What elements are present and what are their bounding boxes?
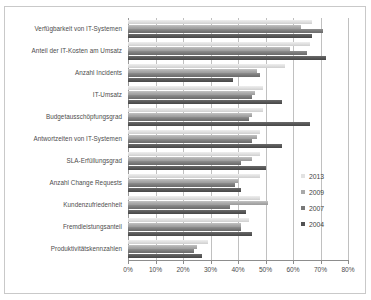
bar-2009 — [128, 91, 255, 95]
x-axis-tick-labels: 0%10%20%30%40%50%60%70%80% — [128, 266, 348, 278]
category-label: Produktivitätskennzahlen — [6, 238, 126, 260]
bar-2009 — [128, 25, 301, 29]
bar-row — [128, 108, 348, 112]
bar-group — [128, 84, 348, 106]
bar-2007 — [128, 51, 307, 55]
bar-row — [128, 29, 348, 33]
bar-2007 — [128, 73, 260, 77]
x-axis-tick-label: 80% — [341, 266, 354, 273]
bar-2004 — [128, 144, 282, 148]
bar-row — [128, 20, 348, 24]
category-label: Anzahl Change Requests — [6, 172, 126, 194]
bar-2013 — [128, 130, 260, 134]
bar-2004 — [128, 122, 310, 126]
bar-row — [128, 73, 348, 77]
bar-row — [128, 47, 348, 51]
bar-row — [128, 254, 348, 258]
bar-row — [128, 139, 348, 143]
x-axis-tick-label: 40% — [231, 266, 244, 273]
legend-label: 2009 — [309, 189, 324, 196]
x-axis-tick-label: 70% — [314, 266, 327, 273]
legend-item-2004[interactable]: 2004 — [301, 216, 357, 232]
bar-group — [128, 128, 348, 150]
bar-group — [128, 40, 348, 62]
category-label: Verfügbarkeit von IT-Systemen — [6, 18, 126, 40]
bar-2007 — [128, 139, 252, 143]
bar-2004 — [128, 56, 326, 60]
bar-2007 — [128, 183, 235, 187]
bar-row — [128, 34, 348, 38]
bar-row — [128, 25, 348, 29]
bar-2007 — [128, 227, 241, 231]
legend-swatch-icon — [301, 206, 305, 210]
category-label: Antwortzeiten von IT-Systemen — [6, 128, 126, 150]
category-label: IT-Umsatz — [6, 84, 126, 106]
legend-item-2013[interactable]: 2013 — [301, 168, 357, 184]
x-axis-tick — [211, 260, 212, 264]
bar-2007 — [128, 29, 323, 33]
bar-row — [128, 161, 348, 165]
bar-group — [128, 238, 348, 260]
bar-row — [128, 69, 348, 73]
legend-swatch-icon — [301, 222, 305, 226]
bar-row — [128, 240, 348, 244]
bar-row — [128, 113, 348, 117]
bar-chart: Verfügbarkeit von IT-SystemenAnteil der … — [0, 0, 371, 300]
x-axis-tick-label: 20% — [176, 266, 189, 273]
bar-2004 — [128, 188, 241, 192]
bar-2013 — [128, 174, 260, 178]
bar-row — [128, 135, 348, 139]
bar-2009 — [128, 201, 268, 205]
bar-2009 — [128, 47, 290, 51]
bar-2007 — [128, 117, 249, 121]
bar-group — [128, 62, 348, 84]
bar-row — [128, 232, 348, 236]
bar-row — [128, 130, 348, 134]
bar-row — [128, 56, 348, 60]
category-axis: Verfügbarkeit von IT-SystemenAnteil der … — [6, 18, 126, 260]
bar-2013 — [128, 108, 263, 112]
bar-row — [128, 144, 348, 148]
category-label: SLA-Erfüllungsgrad — [6, 150, 126, 172]
bar-row — [128, 122, 348, 126]
bar-2007 — [128, 161, 241, 165]
legend-label: 2013 — [309, 173, 324, 180]
x-axis-tick — [238, 260, 239, 264]
x-axis-tick — [266, 260, 267, 264]
bar-2004 — [128, 254, 202, 258]
bar-row — [128, 91, 348, 95]
bar-2013 — [128, 196, 260, 200]
bar-row — [128, 245, 348, 249]
legend-item-2007[interactable]: 2007 — [301, 200, 357, 216]
bar-2009 — [128, 113, 252, 117]
bar-row — [128, 100, 348, 104]
x-axis-tick-label: 10% — [149, 266, 162, 273]
bar-row — [128, 249, 348, 253]
bar-2004 — [128, 34, 312, 38]
legend-label: 2004 — [309, 221, 324, 228]
bar-group — [128, 18, 348, 40]
legend-item-2009[interactable]: 2009 — [301, 184, 357, 200]
legend-label: 2007 — [309, 205, 324, 212]
bar-2004 — [128, 166, 266, 170]
bar-2007 — [128, 205, 230, 209]
x-axis-tick-label: 60% — [286, 266, 299, 273]
x-axis-tick-label: 0% — [123, 266, 133, 273]
bar-row — [128, 42, 348, 46]
bar-2013 — [128, 152, 260, 156]
x-axis-tick — [348, 260, 349, 264]
category-label: Anteil der IT-Kosten am Umsatz — [6, 40, 126, 62]
bar-2013 — [128, 42, 310, 46]
bar-group — [128, 106, 348, 128]
x-axis-tick — [128, 260, 129, 264]
bar-row — [128, 51, 348, 55]
legend-swatch-icon — [301, 174, 305, 178]
category-label: Anzahl Incidents — [6, 62, 126, 84]
bar-row — [128, 152, 348, 156]
bar-2009 — [128, 69, 257, 73]
bar-2013 — [128, 218, 249, 222]
bar-2007 — [128, 249, 194, 253]
x-axis-tick-label: 50% — [259, 266, 272, 273]
bar-2004 — [128, 210, 246, 214]
bar-row — [128, 86, 348, 90]
